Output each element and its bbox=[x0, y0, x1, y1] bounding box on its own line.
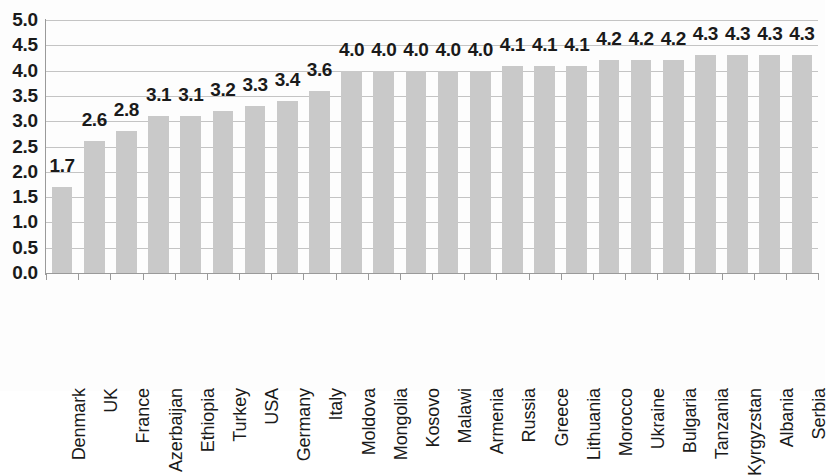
bar-value-label: 4.3 bbox=[757, 23, 782, 45]
data-labels: 1.72.62.83.13.13.23.33.43.64.04.04.04.04… bbox=[46, 0, 818, 273]
y-axis-tick-label: 2.0 bbox=[12, 161, 38, 183]
x-axis-category-label: Ethiopia bbox=[198, 388, 219, 452]
x-axis-tick bbox=[239, 273, 240, 280]
bar-value-label: 4.1 bbox=[532, 34, 557, 56]
x-axis-tick bbox=[303, 273, 304, 280]
bar-value-label: 4.1 bbox=[564, 34, 589, 56]
x-axis-tick bbox=[464, 273, 465, 280]
bar-value-label: 1.7 bbox=[49, 155, 74, 177]
x-axis-tick bbox=[368, 273, 369, 280]
bar-value-label: 2.6 bbox=[82, 109, 107, 131]
bar-value-label: 4.0 bbox=[403, 39, 428, 61]
x-axis-tick bbox=[625, 273, 626, 280]
x-axis-tick bbox=[46, 273, 47, 280]
x-axis-category-label: Serbia bbox=[809, 388, 830, 439]
x-axis-category-label: Albania bbox=[777, 388, 798, 447]
bar-value-label: 4.3 bbox=[693, 23, 718, 45]
x-axis-category-label: Turkey bbox=[230, 388, 251, 442]
bar-value-label: 4.0 bbox=[339, 39, 364, 61]
x-axis-tick bbox=[818, 273, 819, 280]
x-axis-tick bbox=[110, 273, 111, 280]
x-axis-category-label: Russia bbox=[519, 388, 540, 442]
x-axis-tick bbox=[432, 273, 433, 280]
y-axis-tick-label: 1.0 bbox=[12, 211, 38, 233]
x-axis-tick bbox=[689, 273, 690, 280]
x-axis-tick bbox=[78, 273, 79, 280]
x-axis-tick bbox=[561, 273, 562, 280]
bar-value-label: 4.0 bbox=[468, 39, 493, 61]
x-axis-category-label: Greece bbox=[552, 388, 573, 446]
y-axis-tick-label: 3.0 bbox=[12, 110, 38, 132]
x-axis-category-label: Lithuania bbox=[584, 388, 605, 460]
x-axis-tick bbox=[754, 273, 755, 280]
x-axis-category-label: Italy bbox=[326, 388, 347, 421]
x-axis-category-label: Bulgaria bbox=[680, 388, 701, 453]
x-axis-tick bbox=[722, 273, 723, 280]
x-axis-tick bbox=[143, 273, 144, 280]
x-axis-tick bbox=[529, 273, 530, 280]
bar-value-label: 4.3 bbox=[789, 23, 814, 45]
x-axis-category-label: UK bbox=[101, 388, 122, 413]
x-axis-tick bbox=[657, 273, 658, 280]
bar-value-label: 3.1 bbox=[146, 84, 171, 106]
bar-value-label: 3.4 bbox=[275, 69, 300, 91]
x-axis-category-label: Armenia bbox=[487, 388, 508, 454]
bar-value-label: 4.0 bbox=[435, 39, 460, 61]
x-axis-category-label: Kyrgyzstan bbox=[745, 388, 766, 476]
bar-value-label: 4.2 bbox=[596, 28, 621, 50]
x-axis-category-label: Azerbaijan bbox=[166, 388, 187, 472]
y-axis-tick-label: 4.0 bbox=[12, 60, 38, 82]
x-axis-tick bbox=[593, 273, 594, 280]
y-axis-tick-label: 0.0 bbox=[12, 262, 38, 284]
x-axis-category-label: Kosovo bbox=[423, 388, 444, 447]
y-axis-tick-label: 3.5 bbox=[12, 85, 38, 107]
bar-value-label: 4.1 bbox=[500, 34, 525, 56]
x-axis-tick bbox=[336, 273, 337, 280]
bar-value-label: 4.0 bbox=[371, 39, 396, 61]
x-axis-category-label: Denmark bbox=[69, 388, 90, 460]
x-axis: DenmarkUKFranceAzerbaijanEthiopiaTurkeyU… bbox=[46, 280, 818, 391]
x-axis-tick bbox=[207, 273, 208, 280]
bar-value-label: 4.2 bbox=[661, 28, 686, 50]
x-axis-category-label: Malawi bbox=[455, 388, 476, 443]
x-axis-tick bbox=[400, 273, 401, 280]
x-axis-tick bbox=[271, 273, 272, 280]
x-axis-category-label: Morocco bbox=[616, 388, 637, 456]
x-axis-category-label: Tanzania bbox=[712, 388, 733, 459]
x-axis-ticks bbox=[46, 273, 818, 280]
x-axis-tick bbox=[786, 273, 787, 280]
bar-value-label: 3.1 bbox=[178, 84, 203, 106]
y-axis-tick-label: 2.5 bbox=[12, 136, 38, 158]
x-axis-category-label: Germany bbox=[294, 388, 315, 461]
bar-value-label: 3.2 bbox=[210, 79, 235, 101]
y-axis: 5.04.54.03.53.02.52.01.51.00.50.0 bbox=[0, 0, 44, 291]
y-axis-tick-label: 4.5 bbox=[12, 34, 38, 56]
bar-value-label: 3.6 bbox=[307, 59, 332, 81]
x-axis-category-label: Moldova bbox=[359, 388, 380, 455]
y-axis-tick-label: 0.5 bbox=[12, 237, 38, 259]
y-axis-tick-label: 5.0 bbox=[12, 9, 38, 31]
x-axis-category-label: Mongolia bbox=[391, 388, 412, 460]
y-axis-tick-label: 1.5 bbox=[12, 186, 38, 208]
x-axis-category-label: France bbox=[133, 388, 154, 443]
x-axis-tick bbox=[496, 273, 497, 280]
bar-value-label: 4.3 bbox=[725, 23, 750, 45]
bar-value-label: 4.2 bbox=[628, 28, 653, 50]
x-axis-category-label: Ukraine bbox=[648, 388, 669, 449]
bar-value-label: 2.8 bbox=[114, 99, 139, 121]
bar-value-label: 3.3 bbox=[242, 74, 267, 96]
x-axis-tick bbox=[175, 273, 176, 280]
x-axis-category-label: USA bbox=[262, 388, 283, 425]
